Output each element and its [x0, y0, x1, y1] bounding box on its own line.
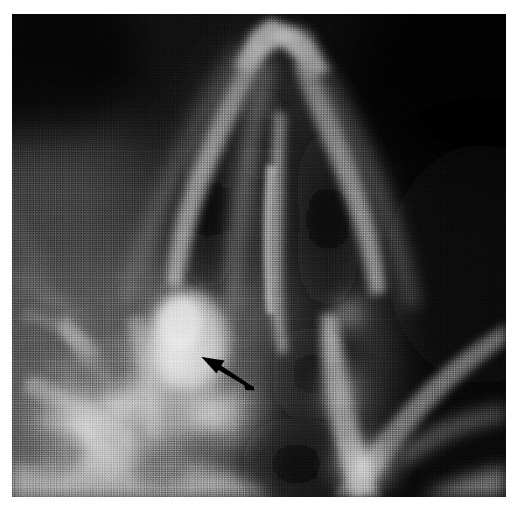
figure-page: occipitomental (Waters) paranasal sinus …: [0, 0, 517, 513]
radiograph-image: [12, 14, 506, 497]
radiograph-plate: [12, 14, 506, 497]
